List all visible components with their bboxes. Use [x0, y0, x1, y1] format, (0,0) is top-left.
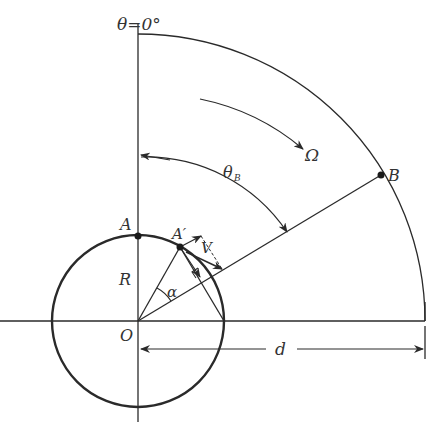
label-point-a-prime: A′ [170, 225, 187, 243]
label-radius: R [118, 270, 131, 289]
label-velocity: V [201, 239, 214, 257]
label-theta-zero: θ=0° [117, 14, 161, 34]
theta-b-arc [141, 157, 287, 232]
label-origin: O [120, 326, 133, 345]
label-alpha: α [167, 283, 177, 301]
label-distance: d [275, 339, 286, 359]
point-b-dot [378, 172, 385, 179]
point-a-dot [135, 233, 142, 240]
label-point-b: B [387, 166, 400, 185]
label-omega: Ω [304, 145, 319, 165]
point-a-prime-dot [177, 244, 184, 251]
label-point-a: A [118, 215, 132, 234]
diagram-canvas: θ=0° Ω θ B B A A′ V R α O d [0, 0, 433, 429]
line-a-prime-to-edge [180, 247, 224, 321]
label-theta-b-sub: B [233, 173, 241, 183]
omega-arrow [200, 99, 303, 149]
label-theta-b: θ [223, 163, 233, 182]
